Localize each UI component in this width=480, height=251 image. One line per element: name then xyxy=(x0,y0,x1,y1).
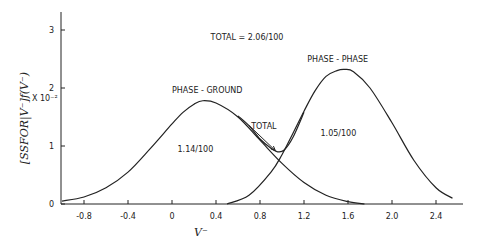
x-tick-label: 0 xyxy=(169,212,174,221)
annotation: 1.05/100 xyxy=(321,129,357,138)
y-axis-label: [SSFOR|V⁻]f(V⁻) xyxy=(18,72,32,164)
x-tick-label: 2.0 xyxy=(386,212,399,221)
annotations: TOTAL = 2.06/100PHASE - GROUNDPHASE - PH… xyxy=(172,33,368,153)
chart: -0.8-0.400.40.81.21.62.02.4 0123 [SSFOR|… xyxy=(0,0,480,251)
x-ticks: -0.8-0.400.40.81.21.62.02.4 xyxy=(76,200,442,221)
annotation: PHASE - GROUND xyxy=(172,86,242,95)
x-tick-label: 1.6 xyxy=(342,212,355,221)
annotation: TOTAL = 2.06/100 xyxy=(210,33,284,42)
y-multiplier-label: X 10⁻² xyxy=(32,94,58,103)
x-tick-label: -0.8 xyxy=(76,212,92,221)
annotation: PHASE - PHASE xyxy=(307,55,368,64)
x-tick-label: 2.4 xyxy=(430,212,443,221)
curves xyxy=(62,69,453,204)
x-tick-label: 0.8 xyxy=(254,212,267,221)
x-tick-label: 1.2 xyxy=(298,212,311,221)
y-tick-label: 1 xyxy=(49,142,54,151)
y-tick-label: 2 xyxy=(49,84,54,93)
x-axis-label: V⁻ xyxy=(194,226,208,239)
y-ticks: 0123 xyxy=(49,26,65,209)
annotation: 1.14/100 xyxy=(178,145,214,154)
annotation: TOTAL xyxy=(250,122,277,131)
x-tick-label: -0.4 xyxy=(120,212,136,221)
y-tick-label: 0 xyxy=(49,200,54,209)
y-tick-label: 3 xyxy=(49,26,54,35)
x-tick-label: 0.4 xyxy=(210,212,223,221)
